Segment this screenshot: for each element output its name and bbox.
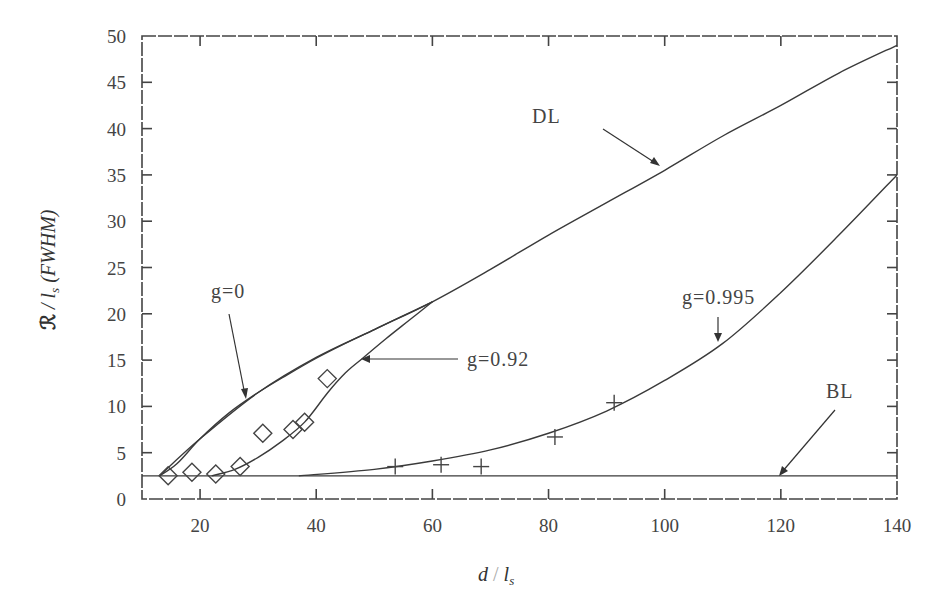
- x-tick-label: 60: [423, 515, 442, 536]
- x-tick-label: 100: [650, 515, 679, 536]
- y-tick-label: 0: [117, 489, 127, 510]
- arrow-bl: [782, 410, 835, 472]
- cross-marker: [473, 459, 489, 475]
- arrowhead-bl: [779, 466, 788, 476]
- arrowhead-g0: [241, 388, 248, 399]
- annotation-g0: g=0: [211, 280, 248, 399]
- annotation-g0995-label: g=0.995: [682, 286, 755, 309]
- annotation-dl-label: DL: [532, 105, 561, 127]
- y-tick-label: 40: [107, 119, 126, 140]
- y-tick-label: 25: [107, 258, 126, 279]
- arrowhead-dl: [650, 157, 660, 166]
- arrow-g0: [229, 314, 245, 395]
- y-tick-label: 15: [107, 350, 126, 371]
- chart-canvas: 2040608010012014005101520253035404550 DL…: [0, 0, 933, 606]
- plot-border: [142, 36, 897, 499]
- annotation-g092: g=0.92: [361, 348, 529, 371]
- arrowhead-g0995: [714, 333, 722, 342]
- plot-frame: [142, 36, 897, 499]
- annotation-dl: DL: [532, 105, 660, 166]
- y-tick-label: 50: [107, 26, 126, 47]
- curve-g-0: [159, 302, 432, 476]
- curves: [142, 45, 897, 476]
- y-tick-label: 20: [107, 304, 126, 325]
- annotation-bl-label: BL: [826, 380, 854, 402]
- x-tick-label: 140: [883, 515, 912, 536]
- arrow-dl: [603, 129, 657, 164]
- x-tick-label: 20: [191, 515, 210, 536]
- annotation-bl: BL: [779, 380, 854, 476]
- annotation-g0-label: g=0: [211, 280, 245, 303]
- annotation-g092-label: g=0.92: [467, 348, 529, 371]
- cross-marker: [547, 429, 563, 445]
- x-axis-title: d / ls: [478, 563, 514, 588]
- diamond-marker: [183, 463, 201, 481]
- diamond-marker: [284, 421, 302, 439]
- y-tick-label: 5: [117, 443, 127, 464]
- diamond-marker: [254, 424, 272, 442]
- curve-g-0-995: [299, 175, 897, 476]
- svg-text:ℛ / ls (FWHM): ℛ / ls (FWHM): [37, 209, 62, 330]
- annotation-g0995: g=0.995: [682, 286, 755, 342]
- y-tick-label: 45: [107, 72, 126, 93]
- cross-marker: [387, 459, 403, 475]
- y-axis-title: ℛ / ls (FWHM): [37, 209, 62, 330]
- axis-ticks: [142, 36, 897, 499]
- x-tick-label: 80: [539, 515, 558, 536]
- x-tick-label: 120: [767, 515, 796, 536]
- cross-marker: [606, 395, 622, 411]
- x-tick-label: 40: [307, 515, 326, 536]
- y-tick-label: 35: [107, 165, 126, 186]
- y-tick-label: 30: [107, 211, 126, 232]
- curve-dl: [159, 45, 897, 476]
- y-tick-label: 10: [107, 396, 126, 417]
